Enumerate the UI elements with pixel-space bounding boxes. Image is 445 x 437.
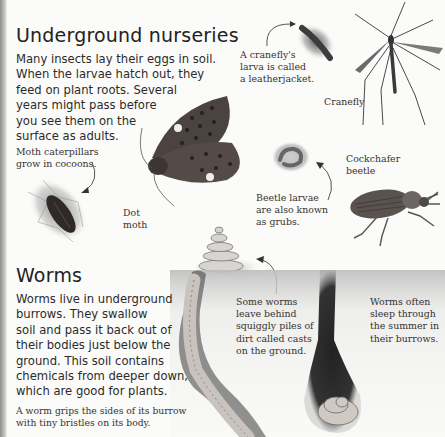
section-body-worms: Worms live in underground burrows. They …	[16, 292, 188, 400]
caption-dot-moth: Dot moth	[123, 207, 147, 231]
cockchafer-beetle-illustration	[348, 182, 445, 248]
section-title-worms: Worms	[16, 264, 82, 286]
section-title-underground-nurseries: Underground nurseries	[16, 24, 239, 46]
pointer-arrow-cocoon	[78, 160, 102, 196]
dot-moth-illustration	[132, 88, 247, 208]
caption-leatherjacket: A cranefly's larva is called a leatherja…	[240, 49, 314, 86]
beetle-grub-illustration	[270, 140, 312, 174]
page-edge-shadow	[0, 0, 7, 437]
caption-cockchafer: Cockchafer beetle	[346, 153, 400, 177]
caption-cranefly: Cranefly	[324, 96, 364, 108]
pointer-arrow-leatherjacket	[262, 18, 298, 48]
caption-sleep: Worms often sleep through the summer in …	[370, 296, 439, 345]
caption-casts: Some worms leave behind squiggly piles o…	[236, 296, 314, 357]
caption-worm-bristles: A worm grips the sides of its burrow wit…	[16, 405, 186, 429]
